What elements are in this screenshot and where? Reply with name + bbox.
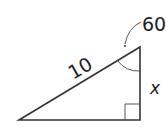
triangle-diagram: 60 10 x: [0, 0, 166, 138]
angle-pointer-arrow: [125, 22, 141, 44]
right-angle-marker: [125, 104, 140, 120]
hypotenuse-label: 10: [64, 52, 96, 83]
angle-arc: [118, 61, 141, 72]
side-label: x: [149, 78, 161, 98]
arrow-tip: [124, 45, 126, 47]
angle-label: 60: [142, 13, 166, 35]
